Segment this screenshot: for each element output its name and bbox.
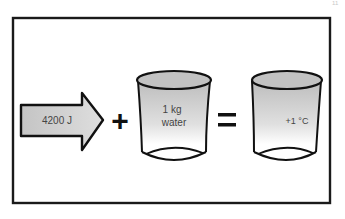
energy-label: 4200 J (42, 115, 72, 126)
plus-sign: + (111, 104, 129, 137)
energy-arrow: 4200 J (21, 93, 103, 150)
temperature-change-label: +1 °C (286, 116, 309, 126)
equals-sign (218, 113, 236, 127)
substance-label: water (161, 117, 187, 128)
beaker-water: 1 kg water (137, 71, 211, 160)
mass-label: 1 kg (163, 104, 182, 115)
beaker-heated: +1 °C (252, 71, 322, 160)
specific-heat-diagram: 4200 J + 1 kg water +1 °C (0, 0, 345, 219)
